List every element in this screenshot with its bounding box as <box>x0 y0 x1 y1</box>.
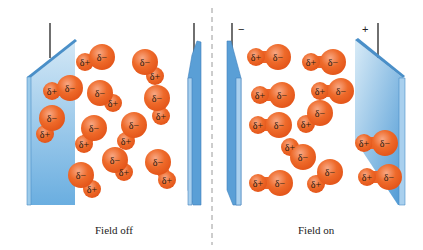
partial-positive-label: δ+ <box>359 138 370 149</box>
partial-negative-label: δ− <box>384 172 395 183</box>
partial-negative-label: δ− <box>95 88 106 99</box>
molecules-layer: δ−δ+δ−δ+δ−δ+δ−δ+δ−δ+δ−δ+δ−δ+δ−δ+δ−δ+δ−δ+… <box>36 44 402 198</box>
partial-positive-label: δ+ <box>285 142 296 153</box>
partial-negative-label: δ− <box>277 90 288 101</box>
partial-negative-label: δ− <box>89 123 100 134</box>
partial-negative-label: δ− <box>152 93 163 104</box>
partial-positive-label: δ+ <box>87 184 98 195</box>
partial-positive-label: δ+ <box>121 136 132 147</box>
polar-molecule: δ−δ+ <box>145 149 176 189</box>
polar-molecule: δ−δ+ <box>102 147 133 181</box>
polar-molecule: δ−δ+ <box>358 164 402 190</box>
partial-positive-label: δ+ <box>156 111 167 122</box>
partial-positive-label: δ+ <box>311 179 322 190</box>
right-plate <box>188 23 201 205</box>
partial-negative-label: δ− <box>315 108 326 119</box>
partial-negative-label: δ− <box>328 57 339 68</box>
partial-positive-label: δ+ <box>253 120 264 131</box>
partial-negative-label: δ− <box>140 57 151 68</box>
partial-positive-label: δ+ <box>162 175 173 186</box>
partial-positive-label: δ+ <box>253 178 264 189</box>
partial-negative-label: δ− <box>273 52 284 63</box>
partial-negative-label: δ− <box>275 178 286 189</box>
partial-positive-label: δ+ <box>40 129 51 140</box>
partial-negative-label: δ− <box>380 138 391 149</box>
partial-positive-label: δ+ <box>251 52 262 63</box>
partial-positive-label: δ+ <box>150 71 161 82</box>
caption-field-on: Field on <box>298 224 334 236</box>
partial-negative-label: δ− <box>47 113 58 124</box>
polar-molecule: δ−δ+ <box>311 78 354 104</box>
polar-molecule: δ−δ+ <box>144 85 170 125</box>
polar-molecule: δ−δ+ <box>76 44 115 71</box>
negative-sign: − <box>238 23 244 35</box>
polar-molecule: δ−δ+ <box>302 49 346 75</box>
polar-molecule: δ−δ+ <box>87 80 122 112</box>
partial-positive-label: δ+ <box>47 86 58 97</box>
partial-positive-label: δ+ <box>80 57 91 68</box>
partial-negative-label: δ− <box>325 167 336 178</box>
partial-positive-label: δ+ <box>119 167 130 178</box>
partial-negative-label: δ− <box>97 52 108 63</box>
partial-negative-label: δ− <box>110 155 121 166</box>
partial-positive-label: δ+ <box>315 86 326 97</box>
polar-molecule: δ−δ+ <box>75 115 107 153</box>
partial-positive-label: δ+ <box>362 172 373 183</box>
caption-field-off: Field off <box>95 224 133 236</box>
partial-positive-label: δ+ <box>108 98 119 109</box>
dielectric-diagram: − + δ−δ+δ−δ+δ−δ+δ−δ+δ−δ+δ−δ+δ−δ+δ−δ+δ−δ+… <box>0 0 423 250</box>
polar-molecule: δ−δ+ <box>249 170 293 196</box>
partial-positive-label: δ+ <box>255 90 266 101</box>
partial-negative-label: δ− <box>76 170 87 181</box>
polar-molecule: δ−δ+ <box>247 44 291 70</box>
partial-positive-label: δ+ <box>306 57 317 68</box>
polar-molecule: δ−δ+ <box>117 112 147 150</box>
polar-molecule: δ−δ+ <box>249 112 292 138</box>
partial-negative-label: δ− <box>274 120 285 131</box>
partial-negative-label: δ− <box>129 120 140 131</box>
negative-plate: − <box>227 23 244 205</box>
partial-negative-label: δ− <box>65 83 76 94</box>
positive-sign: + <box>362 23 368 35</box>
partial-negative-label: δ− <box>153 157 164 168</box>
partial-positive-label: δ+ <box>301 119 312 130</box>
polar-molecule: δ−δ+ <box>132 49 164 85</box>
polar-molecule: δ−δ+ <box>251 82 295 108</box>
polar-molecule: δ−δ+ <box>297 100 333 133</box>
partial-negative-label: δ− <box>298 152 309 163</box>
partial-negative-label: δ− <box>336 86 347 97</box>
polar-molecule: δ−δ+ <box>281 138 316 170</box>
partial-positive-label: δ+ <box>79 139 90 150</box>
